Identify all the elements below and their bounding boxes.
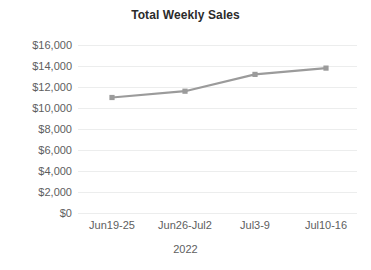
y-axis-tick-label: $0 (0, 207, 72, 219)
data-point-marker (109, 95, 114, 100)
y-axis-tick-labels: $16,000$14,000$12,000$10,000$8,000$6,000… (0, 45, 72, 213)
chart-container: Total Weekly Sales $16,000$14,000$12,000… (0, 0, 371, 270)
data-point-marker (323, 66, 328, 71)
x-axis-tick-label: Jul3-9 (240, 219, 270, 231)
x-axis-tick-label: Jul10-16 (305, 219, 347, 231)
y-axis-tick-label: $6,000 (0, 144, 72, 156)
chart-title: Total Weekly Sales (0, 8, 371, 22)
y-axis-tick-label: $2,000 (0, 186, 72, 198)
plot-area (78, 45, 357, 213)
y-axis-tick-label: $14,000 (0, 60, 72, 72)
y-axis-tick-label: $4,000 (0, 165, 72, 177)
y-axis-tick-label: $10,000 (0, 102, 72, 114)
series-line-chart (78, 45, 357, 213)
data-point-marker (182, 89, 187, 94)
x-axis-title: 2022 (0, 243, 371, 255)
y-axis-tick-label: $16,000 (0, 39, 72, 51)
x-axis-tick-label: Jun19-25 (89, 219, 135, 231)
x-axis-tick-label: Jun26-Jul2 (158, 219, 212, 231)
series-line (112, 68, 326, 97)
gridline (78, 213, 357, 214)
y-axis-tick-label: $12,000 (0, 81, 72, 93)
data-point-marker (252, 72, 257, 77)
x-axis-tick-labels: Jun19-25Jun26-Jul2Jul3-9Jul10-16 (0, 219, 371, 235)
y-axis-tick-label: $8,000 (0, 123, 72, 135)
